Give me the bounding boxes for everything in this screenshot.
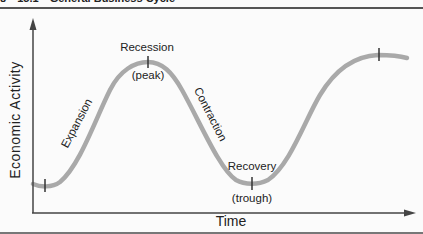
x-axis-arrow-icon	[404, 210, 416, 217]
y-axis-label: Economic Activity	[7, 61, 23, 178]
phase-sublabel-peak: (peak)	[132, 69, 165, 81]
phase-label-contraction: Contraction	[192, 85, 229, 143]
phase-label-expansion: Expansion	[59, 97, 95, 150]
phase-sublabel-trough: (trough)	[232, 192, 272, 204]
y-axis-arrow-icon	[30, 18, 37, 30]
business-cycle-diagram: Economic Activity Time Expansion Recessi…	[0, 0, 423, 234]
phase-label-recession: Recession	[120, 41, 174, 53]
phase-label-recovery: Recovery	[228, 160, 277, 172]
x-axis-label: Time	[216, 213, 247, 229]
footer-rule	[0, 232, 423, 234]
